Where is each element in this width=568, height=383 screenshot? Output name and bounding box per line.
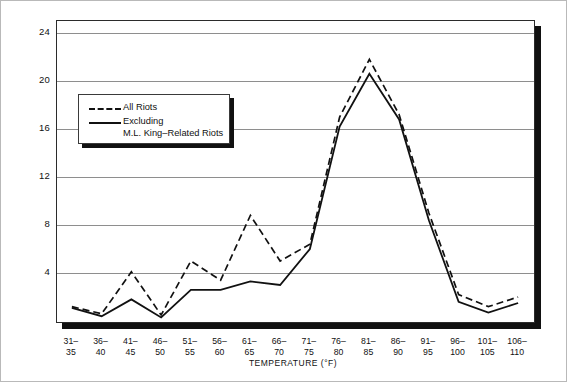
y-tick-label: 24 [14,26,50,37]
y-tick-label: 20 [14,74,50,85]
x-tick-label-line1: 106– [497,336,537,347]
legend-key-solid-icon [87,117,123,129]
y-tick-label: 16 [14,122,50,133]
x-axis-title: TEMPERATURE (°F) [213,358,373,368]
y-tick-label: 4 [14,266,50,277]
legend-label-excluding-line2: M.L. King–Related Riots [123,128,223,138]
chart-figure: NUMBER OF RIOTS All Riots Excluding M.L.… [0,0,568,383]
legend-key-dashed-icon [87,103,123,115]
legend-entry-all-riots: All Riots [87,102,157,115]
legend-label-all-riots: All Riots [123,102,157,114]
legend-entry-excluding: Excluding M.L. King–Related Riots [87,116,223,139]
legend-label-excluding-line1: Excluding [123,116,163,126]
series-lines [57,21,533,321]
y-tick-label: 12 [14,170,50,181]
plot-frame: All Riots Excluding M.L. King–Related Ri… [56,20,535,323]
legend-box: All Riots Excluding M.L. King–Related Ri… [78,94,230,144]
legend-label-excluding: Excluding M.L. King–Related Riots [123,116,223,139]
x-tick-label-line2: 110 [497,347,537,358]
y-tick-label: 8 [14,218,50,229]
x-tick-label: 106–110 [497,336,537,358]
